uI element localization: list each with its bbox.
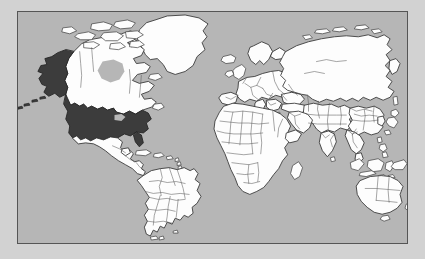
world-map-svg	[18, 12, 407, 243]
page-root	[0, 0, 425, 259]
world-map-frame	[17, 11, 408, 244]
